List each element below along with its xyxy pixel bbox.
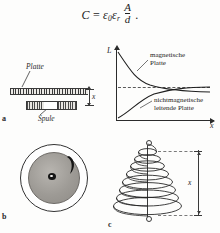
coil-winding-right — [57, 101, 77, 110]
panel-letter-a: a — [2, 114, 6, 123]
figure-root: C = ε0εr A d . Platte Spule x a — [0, 0, 220, 233]
dim-arrow-up — [87, 86, 91, 89]
coil-winding-left — [26, 101, 46, 110]
formula-fraction: A d — [124, 2, 131, 26]
formula-equals: = — [93, 8, 100, 22]
label-platte: Platte — [26, 62, 44, 71]
coil-core — [44, 101, 57, 110]
annotation-nichtmagnetische-platte: nichtmagnetische leitende Platte — [154, 97, 203, 113]
dim-line-height — [198, 150, 199, 216]
dim-arrow-down — [87, 103, 91, 106]
formula-period: . — [135, 8, 138, 22]
annotation-nichtmagnetische-line2: leitende Platte — [154, 105, 203, 113]
panel-b-circular-plate: b — [0, 128, 104, 233]
formula-lhs: C — [81, 8, 89, 22]
label-coil-height-x: x — [188, 178, 191, 187]
panel-a-plate-coil: Platte Spule x a — [0, 48, 104, 126]
formula-denominator: d — [124, 14, 131, 26]
center-hub-highlight — [50, 175, 53, 178]
annotation-magnetische-platte: magnetische Platte — [150, 52, 185, 68]
label-gap-x: x — [92, 92, 95, 101]
dim-arrow-down-c — [197, 211, 201, 214]
eddy-current-marker — [60, 154, 82, 180]
plate-bar — [10, 88, 88, 95]
conical-coil-windings — [106, 128, 220, 233]
dim-leader-bottom — [158, 215, 198, 216]
label-spule: Spule — [38, 114, 55, 123]
annotation-magnetische-line2: Platte — [150, 60, 185, 68]
dim-leader-top — [158, 151, 198, 152]
capacitance-formula: C = ε0εr A d . — [0, 2, 220, 26]
panel-letter-c: c — [108, 220, 112, 229]
formula-numerator: A — [124, 2, 131, 13]
dim-tick-bottom-c — [194, 215, 202, 216]
dim-arrow-up-c — [197, 152, 201, 155]
panel-c-conical-coil: x c — [106, 128, 220, 233]
formula-epsilon-r-sub: r — [117, 14, 120, 23]
inductance-vs-distance-chart: L x magnetische Platte nichtmagnetische … — [106, 40, 220, 128]
panel-letter-b: b — [2, 212, 6, 221]
